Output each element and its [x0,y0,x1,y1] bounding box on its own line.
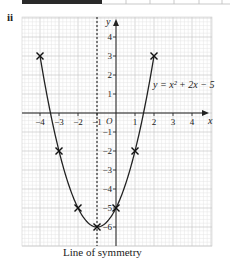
svg-text:1: 1 [108,89,113,99]
svg-text:−5: −5 [102,203,112,213]
svg-text:−4: −4 [102,184,112,194]
svg-text:4: 4 [190,117,195,127]
svg-text:−3: −3 [102,165,112,175]
line-of-symmetry-caption: Line of symmetry [63,246,142,258]
svg-text:−1: −1 [92,117,102,127]
svg-text:−2: −2 [102,146,112,156]
svg-text:−1: −1 [102,127,112,137]
svg-text:−6: −6 [102,222,112,232]
quadratic-graph: xyO −4−3−2−112344321−1−2−3−4−5−6 y = x² … [0,0,230,261]
svg-text:y: y [105,16,111,27]
svg-text:1: 1 [133,117,138,127]
graph-paper-grid [22,17,212,246]
svg-text:−2: −2 [73,117,83,127]
svg-text:4: 4 [108,32,113,42]
svg-text:−3: −3 [54,117,64,127]
svg-text:2: 2 [152,117,157,127]
svg-text:O: O [106,116,113,126]
svg-text:3: 3 [171,117,176,127]
svg-text:−4: −4 [35,117,45,127]
equation-label: y = x² + 2x − 5 [152,79,215,90]
svg-text:2: 2 [108,70,113,80]
svg-text:x: x [207,115,213,126]
svg-text:3: 3 [108,51,113,61]
